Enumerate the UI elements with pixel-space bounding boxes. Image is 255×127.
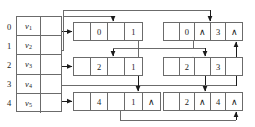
- mid-node-2-cell-2: [108, 58, 125, 75]
- mid-node-3-cell-2: [108, 93, 125, 110]
- vertex-pointer-0[interactable]: [41, 17, 61, 35]
- right-node-3-cell-1: 2: [180, 93, 196, 110]
- right-node-3-cell-2: ∧: [195, 93, 211, 110]
- right-node-3-cell-4: ∧: [226, 93, 242, 110]
- right-node-1[interactable]: 0 ∧ 3 ∧: [163, 22, 243, 41]
- vertex-index-4: 4: [3, 94, 15, 113]
- mid-node-2-cell-1: 2: [91, 58, 108, 75]
- right-node-1-cell-2: ∧: [195, 23, 211, 40]
- vertex-index-3: 3: [3, 75, 15, 94]
- mid-node-3-nil-mark: ∧: [143, 93, 160, 110]
- vertex-label-sub-4: 5: [29, 102, 32, 108]
- vertex-pointer-4[interactable]: [41, 94, 61, 113]
- vertex-row-4[interactable]: 4 v5: [17, 94, 61, 113]
- vertex-label-sub-3: 4: [29, 83, 32, 89]
- vertex-row-0[interactable]: 0 v1: [17, 17, 61, 36]
- right-node-2-cell-1: 2: [180, 58, 196, 75]
- diagram-canvas: 0 v1 1 v2 2 v3 3 v4: [0, 0, 255, 127]
- right-node-1-cell-1: 0: [180, 23, 196, 40]
- mid-node-2-cell-3: 1: [125, 58, 142, 75]
- vertex-row-3[interactable]: 3 v4: [17, 75, 61, 94]
- vertex-label-sub-0: 1: [29, 25, 32, 31]
- mid-node-2[interactable]: 2 1: [73, 57, 143, 76]
- right-node-1-cell-4: ∧: [226, 23, 242, 40]
- right-node-2-cell-2: [195, 58, 211, 75]
- vertex-index-2: 2: [3, 55, 15, 74]
- mid-node-2-cell-0: [74, 58, 91, 75]
- vertex-label-sub-1: 2: [29, 44, 32, 50]
- vertex-pointer-1[interactable]: [41, 36, 61, 54]
- vertex-label-0: v1: [17, 17, 41, 35]
- vertex-label-2: v3: [17, 55, 41, 73]
- vertex-table: 0 v1 1 v2 2 v3 3 v4: [16, 16, 62, 112]
- right-node-3-cell-0: [164, 93, 180, 110]
- vertex-pointer-3[interactable]: [41, 75, 61, 93]
- vertex-label-4: v5: [17, 94, 41, 113]
- vertex-label-3: v4: [17, 75, 41, 93]
- vertex-index-0: 0: [3, 17, 15, 36]
- vertex-index-1: 1: [3, 36, 15, 55]
- mid-node-3[interactable]: 4 1: [73, 92, 143, 111]
- vertex-label-sub-2: 3: [29, 63, 32, 69]
- right-node-3-cell-3: 4: [211, 93, 227, 110]
- wire-mid1-down: [113, 41, 138, 48]
- right-node-1-cell-3: 3: [211, 23, 227, 40]
- right-node-1-cell-0: [164, 23, 180, 40]
- mid-node-1[interactable]: 0 1: [73, 22, 143, 41]
- right-node-3[interactable]: 2 ∧ 4 ∧: [163, 92, 243, 111]
- vertex-row-1[interactable]: 1 v2: [17, 36, 61, 55]
- mid-node-3-tail: ∧: [143, 92, 161, 111]
- mid-node-1-cell-1: 0: [91, 23, 108, 40]
- mid-node-3-cell-3: 1: [125, 93, 142, 110]
- right-node-2-cell-3: 3: [211, 58, 227, 75]
- vertex-label-1: v2: [17, 36, 41, 54]
- vertex-row-2[interactable]: 2 v3: [17, 55, 61, 74]
- right-node-2-cell-0: [164, 58, 180, 75]
- right-node-2[interactable]: 2 3: [163, 57, 243, 76]
- right-node-2-cell-4: [226, 58, 242, 75]
- mid-node-3-cell-0: [74, 93, 91, 110]
- mid-node-1-cell-0: [74, 23, 91, 40]
- vertex-pointer-2[interactable]: [41, 55, 61, 73]
- mid-node-1-cell-2: [108, 23, 125, 40]
- mid-node-1-cell-3: 1: [125, 23, 142, 40]
- mid-node-3-cell-1: 4: [91, 93, 108, 110]
